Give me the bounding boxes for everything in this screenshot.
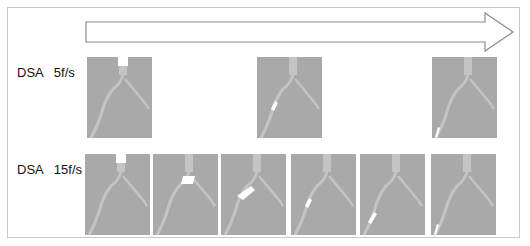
angiogram-frame [221,154,286,235]
angiogram-frame [87,57,152,138]
row-label-15fps: DSA 15f/s [17,162,82,177]
angiogram-frame [360,154,425,235]
angiogram-frame [153,154,218,235]
row-label-5fps: DSA 5f/s [17,65,75,80]
angiogram-frame [85,154,150,235]
angiogram-frame [257,57,322,138]
angiogram-frame [291,154,356,235]
angiogram-frame [432,57,497,138]
time-arrow-icon [85,12,515,52]
angiogram-frame [431,154,496,235]
